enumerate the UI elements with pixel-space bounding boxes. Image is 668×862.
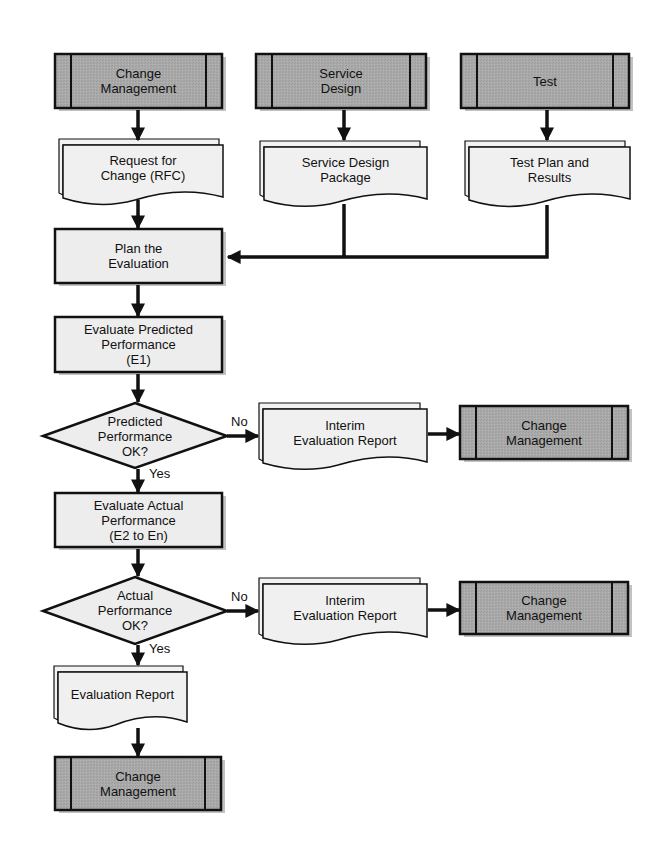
node-test-plan [465, 141, 630, 206]
node-plan-eval [55, 229, 226, 286]
label-pred-no: No [231, 414, 248, 429]
node-eval-predicted [55, 317, 226, 375]
label-pred-yes: Yes [149, 466, 170, 481]
node-eval-report [54, 666, 187, 729]
label-act-yes: Yes [149, 641, 170, 656]
node-interim2 [259, 578, 427, 644]
node-cm-right1 [460, 406, 632, 462]
node-dec-actual [43, 577, 227, 644]
node-cm-bottom [55, 757, 225, 813]
flowchart-canvas: Change Management Service Design Test Re… [0, 0, 668, 862]
node-cm-top [55, 54, 226, 111]
node-test [461, 54, 633, 111]
flowchart-svg [0, 0, 668, 862]
node-service-design [256, 54, 430, 111]
node-dec-predicted [43, 403, 227, 468]
node-rfc [59, 139, 223, 204]
node-cm-right2 [460, 582, 632, 637]
node-sdp [260, 141, 427, 206]
label-act-no: No [231, 589, 248, 604]
node-eval-actual [55, 493, 226, 550]
node-interim1 [259, 403, 427, 469]
